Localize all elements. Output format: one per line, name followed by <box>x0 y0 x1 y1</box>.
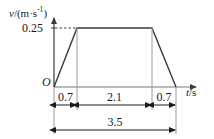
y-axis-label-unit: /(m·s <box>14 7 37 19</box>
dimension-label-last-0-7: 0.7 <box>152 91 176 103</box>
y-tick-label: 0.25 <box>22 22 43 34</box>
y-axis-label-tail: ) <box>43 7 47 19</box>
x-axis-label: t/s <box>186 87 196 98</box>
dimension-label-first-0-7: 0.7 <box>54 91 77 103</box>
origin-label: O <box>42 76 51 88</box>
velocity-profile-line <box>54 28 176 87</box>
y-axis-label: v/(m·s-1) <box>9 8 47 19</box>
x-axis-label-tail: /s <box>189 86 196 98</box>
velocity-time-graph-figure: v/(m·s-1) 0.25 O t/s 0.7 2.1 0.7 3.5 <box>0 0 214 139</box>
dimension-label-middle-2-1: 2.1 <box>77 91 152 103</box>
dimension-label-total-3-5: 3.5 <box>54 116 176 128</box>
